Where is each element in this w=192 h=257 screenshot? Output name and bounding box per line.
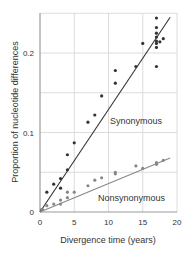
data-point [141, 167, 144, 170]
data-point [66, 191, 69, 194]
data-point [73, 141, 76, 144]
series-synonymous [40, 16, 170, 212]
data-point [162, 159, 165, 162]
data-point [45, 204, 48, 207]
x-tick-label: 15 [138, 218, 147, 227]
data-point [66, 168, 69, 171]
data-point [155, 65, 158, 68]
data-point [155, 161, 158, 164]
data-point [114, 82, 117, 85]
x-tick-label: 0 [38, 218, 43, 227]
trend-line [40, 17, 170, 212]
series-nonsynonymous [40, 158, 170, 212]
data-point [59, 177, 62, 180]
data-point [162, 37, 165, 40]
synonymous-annotation: Synonymous [110, 116, 163, 126]
data-point [45, 191, 48, 194]
data-point [66, 153, 69, 156]
data-point [52, 202, 55, 205]
data-point [93, 179, 96, 182]
x-tick-label: 20 [173, 218, 182, 227]
data-point [93, 113, 96, 116]
chart: 0510152000.10.2 Divergence time (years) … [0, 0, 192, 257]
x-tick-label: 5 [72, 218, 77, 227]
data-point [155, 42, 158, 45]
data-point [59, 198, 62, 201]
data-point [66, 196, 69, 199]
data-point [155, 36, 158, 39]
data-point [59, 187, 62, 190]
data-point [59, 202, 62, 205]
data-point [155, 26, 158, 29]
data-point [100, 94, 103, 97]
y-axis-label: Proportion of nucleotide differences [10, 41, 20, 183]
data-point [134, 65, 137, 68]
data-point [155, 46, 158, 49]
x-axis-label: Divergence time (years) [60, 235, 156, 245]
series-layer [40, 16, 170, 212]
x-tick-label: 10 [104, 218, 113, 227]
data-point [141, 42, 144, 45]
nonsynonymous-annotation: Nonsynonymous [98, 193, 166, 203]
data-point [86, 184, 89, 187]
y-tick-label: 0 [30, 208, 35, 217]
data-point [86, 121, 89, 124]
data-point [73, 191, 76, 194]
y-tick-label: 0.1 [23, 129, 35, 138]
y-tick-label: 0.2 [23, 49, 35, 58]
data-point [100, 176, 103, 179]
data-point [52, 183, 55, 186]
data-point [155, 32, 158, 35]
data-point [114, 69, 117, 72]
data-point [158, 40, 161, 43]
data-point [134, 164, 137, 167]
data-point [155, 16, 158, 19]
data-point [114, 171, 117, 174]
data-point [40, 208, 43, 211]
